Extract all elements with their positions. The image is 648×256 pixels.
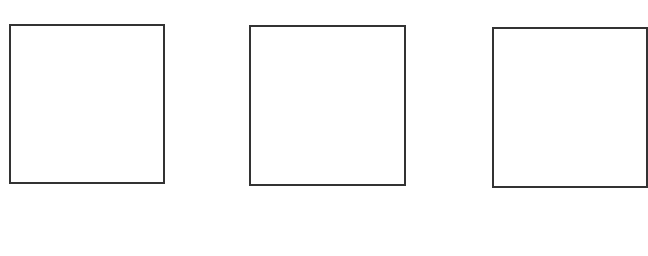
square-1 xyxy=(9,24,165,184)
square-2 xyxy=(249,25,406,186)
square-3 xyxy=(492,27,648,188)
